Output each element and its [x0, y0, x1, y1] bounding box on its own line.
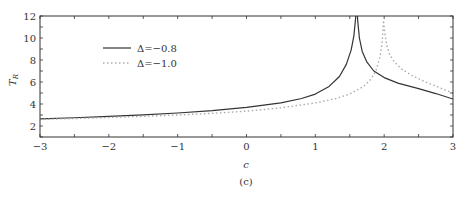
- legend: Δ=−0.8 Δ=−1.0: [103, 43, 177, 69]
- plot-frame: [40, 16, 453, 137]
- series-line-1: [40, 20, 453, 119]
- legend-label-dotted: Δ=−1.0: [137, 58, 177, 69]
- figure-caption: (c): [239, 176, 253, 187]
- y-axis-label-sub: R: [12, 73, 20, 80]
- axis-ticks: −3−2−1012324681012: [23, 11, 456, 153]
- y-tick-label: 6: [30, 77, 36, 88]
- svg-text:TR: TR: [7, 73, 20, 86]
- x-tick-label: 3: [450, 141, 456, 152]
- x-tick-label: −3: [33, 141, 48, 152]
- x-tick-label: −1: [170, 141, 185, 152]
- x-tick-label: 1: [312, 141, 318, 152]
- x-axis-label: c: [243, 159, 249, 170]
- x-tick-label: 0: [243, 141, 249, 152]
- y-tick-label: 2: [30, 121, 36, 132]
- x-tick-label: −2: [101, 141, 116, 152]
- legend-label-solid: Δ=−0.8: [137, 43, 177, 54]
- y-tick-label: 12: [23, 11, 36, 22]
- y-tick-label: 8: [30, 55, 36, 66]
- chart: −3−2−1012324681012 Δ=−0.8 Δ=−1.0 TR c (c…: [0, 0, 465, 197]
- y-tick-label: 4: [30, 99, 36, 110]
- x-tick-label: 2: [381, 141, 387, 152]
- y-axis-label: TR: [7, 73, 20, 86]
- y-tick-label: 10: [23, 33, 36, 44]
